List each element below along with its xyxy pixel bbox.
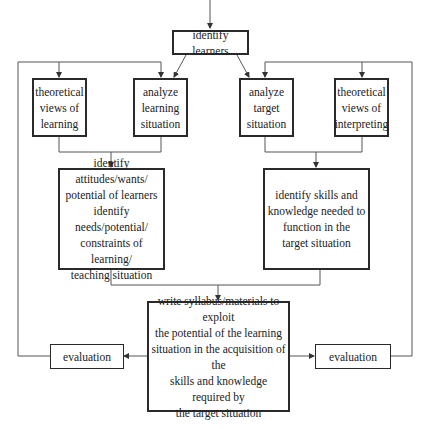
identify-attitudes-label: identify attitudes/wants/ potential of l…	[62, 155, 161, 283]
identify-skills-label: identify skills and knowledge needed to …	[268, 187, 366, 251]
theoretical-views-interpreting-label: theoretical views of interpreting	[335, 84, 389, 132]
analyze-learning-situation-label: analyze learning situation	[141, 84, 181, 132]
identify-attitudes-box: identify attitudes/wants/ potential of l…	[58, 168, 165, 270]
theoretical-views-interpreting-box: theoretical views of interpreting	[334, 78, 389, 137]
identify-learners-box: identify learners	[172, 30, 249, 55]
analyze-learning-situation-box: analyze learning situation	[133, 78, 188, 137]
evaluation-left-box: evaluation	[50, 344, 124, 369]
identify-learners-label: identify learners	[176, 27, 245, 59]
write-syllabus-label: write syllabus/materials to exploit the …	[151, 293, 286, 421]
evaluation-right-box: evaluation	[315, 344, 391, 369]
identify-skills-box: identify skills and knowledge needed to …	[263, 168, 370, 270]
theoretical-views-learning-box: theoretical views of learning	[32, 78, 87, 137]
evaluation-right-label: evaluation	[329, 349, 377, 365]
write-syllabus-box: write syllabus/materials to exploit the …	[147, 301, 290, 412]
analyze-target-situation-label: analyze target situation	[247, 84, 287, 132]
evaluation-left-label: evaluation	[63, 349, 111, 365]
theoretical-views-learning-label: theoretical views of learning	[35, 84, 84, 132]
analyze-target-situation-box: analyze target situation	[239, 78, 294, 137]
